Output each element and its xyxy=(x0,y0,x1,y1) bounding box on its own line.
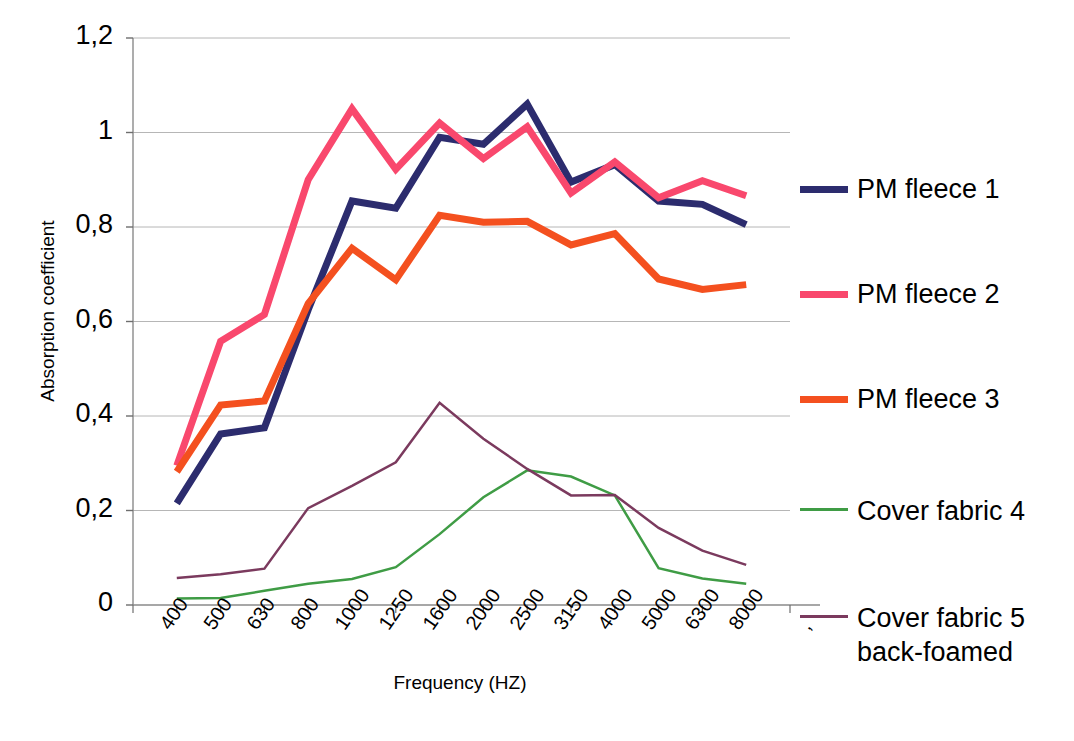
legend-item-3[interactable]: PM fleece 3 xyxy=(800,382,1000,416)
legend-item-5[interactable]: Cover fabric 5 back-foamed xyxy=(800,601,1025,669)
legend-item-4[interactable]: Cover fabric 4 xyxy=(800,494,1025,528)
legend-swatch-icon xyxy=(800,291,848,298)
legend-label: PM fleece 1 xyxy=(857,172,1000,206)
series-line-1 xyxy=(177,104,746,503)
absorption-coefficient-chart: 00,20,40,60,811,2 4005006308001000125016… xyxy=(0,0,1074,741)
legend-item-1[interactable]: PM fleece 1 xyxy=(800,172,1000,206)
legend-label: PM fleece 2 xyxy=(857,277,1000,311)
legend-swatch-icon xyxy=(800,508,848,511)
legend-label: Cover fabric 4 xyxy=(857,494,1025,528)
y-tick-label: 1 xyxy=(33,115,113,146)
y-tick-label: 0,2 xyxy=(33,493,113,524)
data-series-lines xyxy=(177,104,746,598)
legend-item-2[interactable]: PM fleece 2 xyxy=(800,277,1000,311)
gridlines xyxy=(133,38,790,511)
legend-swatch-icon xyxy=(800,396,848,403)
x-axis-title: Frequency (HZ) xyxy=(280,672,640,694)
series-line-2 xyxy=(177,109,746,466)
y-tick-label: 1,2 xyxy=(33,20,113,51)
legend-swatch-icon xyxy=(800,615,848,618)
y-tick-label: 0 xyxy=(33,587,113,618)
series-line-3 xyxy=(177,215,746,472)
legend-swatch-icon xyxy=(800,186,848,193)
legend-label: Cover fabric 5 back-foamed xyxy=(857,601,1025,669)
y-axis-title: Absorption coefficient xyxy=(37,201,59,421)
series-line-4 xyxy=(177,470,746,598)
legend-label: PM fleece 3 xyxy=(857,382,1000,416)
